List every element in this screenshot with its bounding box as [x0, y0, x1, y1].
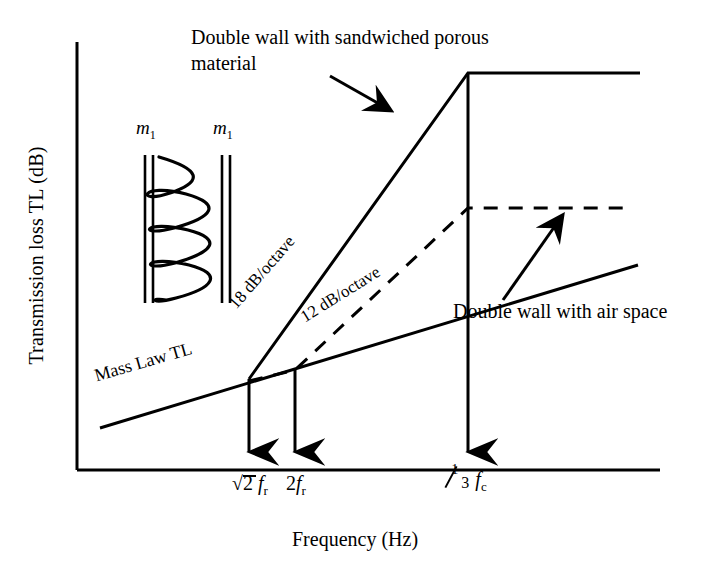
x-axis-label: Frequency (Hz)	[292, 528, 418, 551]
pointer-arrow-airspace	[503, 216, 562, 300]
mass-label-right: m1	[213, 117, 233, 143]
fraction-denominator: 3	[461, 474, 469, 492]
sandwiched-porous-curve	[249, 73, 640, 379]
mass-label-right-subscript: 1	[227, 128, 233, 142]
mass-label-left-subscript: 1	[150, 128, 156, 142]
xtick-label-2fr: 2fr	[258, 472, 334, 499]
spring-coil	[147, 157, 210, 301]
xtick-2-subscript: r	[302, 483, 306, 498]
annotation-double-wall-air-space: Double wall with air space	[453, 300, 667, 323]
xtick-label-third-fc: 1 3 fc	[418, 466, 518, 495]
xtick-2-prefix: 2	[286, 472, 296, 494]
air-space-curve	[249, 208, 633, 381]
mass-label-right-symbol: m	[213, 117, 227, 138]
y-axis-label: Transmission loss TL (dB)	[25, 106, 48, 406]
pointer-arrow-sandwiched	[330, 76, 390, 110]
mass-label-left: m1	[136, 117, 156, 143]
figure-canvas: Transmission loss TL (dB) Frequency (Hz)…	[0, 0, 727, 583]
mass-label-left-symbol: m	[136, 117, 150, 138]
sqrt-icon: √	[232, 472, 243, 494]
xtick-3-subscript: c	[481, 479, 487, 494]
axis-lines	[77, 42, 660, 470]
fraction-one-third: 1 3	[449, 466, 475, 490]
mass-spring-mass-inset	[145, 155, 230, 303]
annotation-sandwiched-porous: Double wall with sandwiched porous mater…	[191, 24, 491, 76]
